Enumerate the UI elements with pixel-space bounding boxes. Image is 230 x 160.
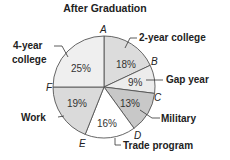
- value-trade: 16%: [97, 118, 117, 129]
- value-gap-year: 9%: [128, 77, 143, 88]
- point-a: A: [99, 24, 107, 35]
- label-4-year-line1: 4-year: [13, 40, 43, 51]
- label-military: Military: [161, 113, 196, 124]
- point-b: B: [151, 56, 158, 67]
- point-e: E: [79, 138, 86, 149]
- label-work: Work: [21, 112, 46, 123]
- slice-4-year-college: [53, 36, 104, 87]
- label-gap-year: Gap year: [166, 74, 209, 85]
- value-work: 19%: [67, 98, 87, 109]
- value-2-year: 18%: [116, 59, 136, 70]
- label-4-year-line2: college: [12, 54, 47, 65]
- pie-chart: 18% 9% 13% 16% 19% 25% A B C D E F 2-yea…: [0, 0, 230, 160]
- point-f: F: [46, 82, 53, 93]
- label-2-year-college: 2-year college: [139, 32, 206, 43]
- value-military: 13%: [120, 98, 140, 109]
- label-trade-program: Trade program: [123, 140, 193, 151]
- point-c: C: [154, 92, 162, 103]
- value-4-year: 25%: [71, 63, 91, 74]
